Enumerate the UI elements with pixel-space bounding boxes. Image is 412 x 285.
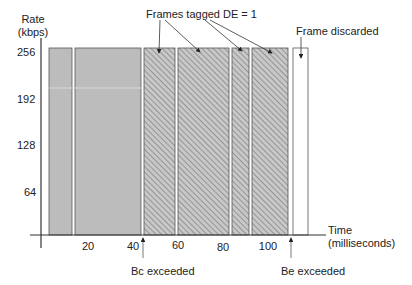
y-axis-title-line2: (kbps): [8, 26, 58, 38]
bar-frame-1: [49, 48, 72, 235]
bar-frame-2: [75, 48, 141, 235]
y-tick-128: 128: [17, 139, 35, 151]
y-axis-title-line1: Rate: [8, 13, 58, 25]
x-tick-60: 60: [168, 239, 188, 251]
x-tick-100: 100: [255, 240, 281, 252]
be-exceeded-label: Be exceeded: [281, 265, 345, 277]
bar-frame-7-discarded: [293, 48, 308, 235]
bar-frame-4-tagged: [178, 48, 229, 235]
bar-frame-3-tagged: [144, 48, 175, 235]
x-axis-title-line1: Time: [328, 224, 352, 236]
y-tick-64: 64: [24, 186, 36, 198]
x-tick-20: 20: [78, 240, 98, 252]
bc-exceeded-label: Bc exceeded: [131, 265, 195, 277]
x-tick-40: 40: [123, 240, 143, 252]
frame-discarded-label: Frame discarded: [296, 25, 379, 37]
tagged-arrow-2: [165, 20, 200, 52]
bar-frame-5-tagged: [232, 48, 249, 235]
y-tick-256: 256: [17, 46, 35, 58]
x-tick-80: 80: [213, 241, 233, 253]
tagged-arrow-3: [205, 20, 242, 51]
y-tick-192: 192: [17, 93, 35, 105]
bar-frame-6-tagged: [252, 48, 288, 235]
tagged-frames-label: Frames tagged DE = 1: [146, 8, 257, 20]
x-axis-title-line2: (milliseconds): [328, 237, 395, 249]
